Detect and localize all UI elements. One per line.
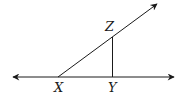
label-y: Y bbox=[108, 80, 118, 95]
geometry-diagram: X Y Z bbox=[0, 0, 186, 103]
ray-xz bbox=[58, 4, 157, 77]
label-x: X bbox=[53, 80, 64, 95]
label-z: Z bbox=[104, 19, 115, 34]
